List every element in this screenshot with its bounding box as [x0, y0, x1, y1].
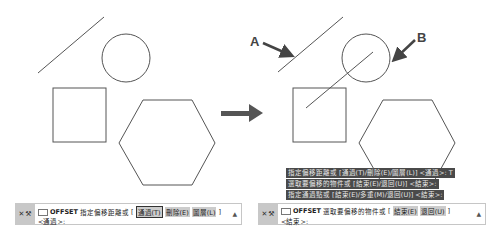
right-line-shape [278, 17, 343, 72]
offset-line-shape [306, 52, 373, 108]
command-prompt: 指定偏移距離或 [80, 207, 129, 217]
command-name: OFFSET [50, 208, 78, 216]
left-circle-shape [102, 34, 150, 82]
command-icon [38, 209, 48, 216]
transition-arrow-icon [221, 104, 263, 122]
bracket: ] [448, 207, 451, 215]
left-square-shape [53, 88, 106, 142]
left-drawing [38, 17, 215, 185]
customize-icon[interactable]: ⚒ [268, 210, 274, 218]
command-grip[interactable]: ✕ ⚒ [15, 203, 35, 225]
option-layer[interactable]: 圖層(L) [192, 207, 217, 217]
command-input[interactable]: OFFSET 選取要偏移的物件或 [ 結束(E) 退回(U) ] <結束>: ▲ [278, 203, 486, 225]
customize-icon[interactable]: ⚒ [25, 210, 31, 218]
option-erase[interactable]: 刪除(E) [165, 207, 190, 217]
left-line-shape [38, 17, 104, 73]
pointer-a-arrow-icon [263, 43, 288, 54]
history-line: 選取要偏移的物件或 [結束(E)/退回(U)] <結束>: [286, 179, 439, 189]
command-grip[interactable]: ✕ ⚒ [258, 203, 278, 225]
history-line: 指定偏移距離或 [通過(T)/刪除(E)/圖層(L)] <通過>: T [286, 168, 455, 178]
left-hexagon-shape [119, 100, 215, 185]
option-exit[interactable]: 結束(E) [393, 206, 418, 216]
command-name: OFFSET [293, 207, 321, 215]
command-default: <結束>: [281, 216, 308, 226]
close-icon[interactable]: ✕ [261, 210, 267, 218]
bracket: [ [131, 208, 134, 216]
bracket: ] [218, 208, 221, 216]
command-icon [281, 208, 291, 215]
close-icon[interactable]: ✕ [18, 210, 24, 218]
command-prompt: 選取要偏移的物件或 [323, 206, 386, 216]
history-line: 指定通過點或 [結束(E)/多重(M)/退回(U)] <結束>: [286, 190, 444, 200]
label-b: B [417, 30, 426, 45]
left-command-line[interactable]: ✕ ⚒ OFFSET 指定偏移距離或 [ 通過(T) 刪除(E) 圖層(L) ]… [15, 203, 242, 225]
command-input[interactable]: OFFSET 指定偏移距離或 [ 通過(T) 刪除(E) 圖層(L) ] <通過… [35, 203, 242, 225]
scroll-up-icon[interactable]: ▲ [232, 210, 237, 217]
scroll-up-icon[interactable]: ▲ [476, 210, 481, 217]
pointer-b-arrow-icon [397, 40, 415, 57]
option-undo[interactable]: 退回(U) [420, 206, 446, 216]
command-default: <通過>: [38, 216, 65, 226]
option-through[interactable]: 通過(T) [136, 206, 163, 218]
bracket: [ [388, 207, 391, 215]
label-a: A [250, 34, 259, 49]
right-command-line[interactable]: ✕ ⚒ OFFSET 選取要偏移的物件或 [ 結束(E) 退回(U) ] <結束… [258, 203, 486, 225]
